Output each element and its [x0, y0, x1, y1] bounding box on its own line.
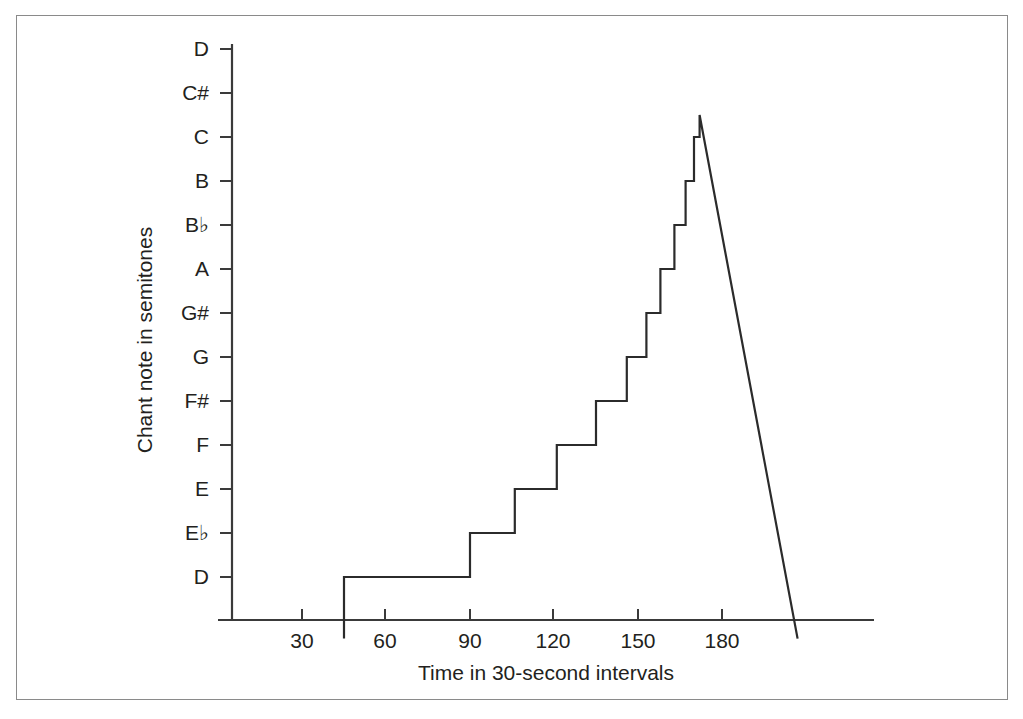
- y-tick-label-4: F#: [184, 389, 209, 412]
- y-tick-label-10: C: [194, 125, 209, 148]
- x-tick-label-1: 60: [373, 629, 396, 652]
- y-tick-label-2: E: [195, 477, 209, 500]
- chart-svg: D C# C B B♭ A G# G F# F E E♭ D 30 60 90 …: [0, 0, 1023, 719]
- y-tick-label-0: D: [194, 565, 209, 588]
- y-axis-ticks: [220, 49, 232, 577]
- y-tick-label-7: A: [195, 257, 209, 280]
- x-axis-title: Time in 30-second intervals: [418, 661, 674, 684]
- y-tick-label-9: B: [195, 169, 209, 192]
- x-axis-ticks: [302, 609, 722, 620]
- y-tick-label-8: B♭: [185, 213, 209, 236]
- chant-pitch-line: [344, 115, 798, 639]
- x-tick-label-3: 120: [535, 629, 570, 652]
- y-tick-label-3: F: [196, 433, 209, 456]
- chart-area: D C# C B B♭ A G# G F# F E E♭ D 30 60 90 …: [0, 0, 1023, 719]
- x-tick-label-0: 30: [290, 629, 313, 652]
- x-tick-label-2: 90: [458, 629, 481, 652]
- y-tick-label-1: E♭: [185, 521, 209, 544]
- x-tick-label-4: 150: [620, 629, 655, 652]
- y-tick-label-5: G: [193, 345, 209, 368]
- x-tick-label-5: 180: [704, 629, 739, 652]
- y-tick-label-11: C#: [182, 81, 209, 104]
- y-tick-label-12: D: [194, 37, 209, 60]
- y-tick-label-6: G#: [181, 301, 209, 324]
- y-axis-title: Chant note in semitones: [133, 227, 156, 453]
